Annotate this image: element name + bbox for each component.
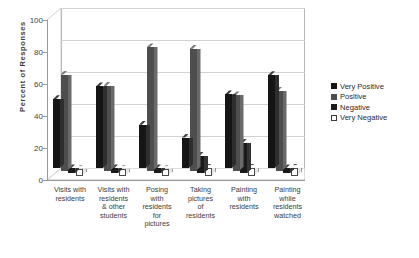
bar-face (53, 99, 60, 168)
legend-swatch-icon (331, 104, 337, 110)
bar-group (96, 8, 136, 180)
bar-side-3d (212, 168, 216, 176)
chart-legend: Very PositivePositiveNegativeVery Negati… (331, 81, 417, 123)
bar-side-3d (169, 169, 173, 175)
x-axis-category-label: Paintingwithresidents (221, 186, 267, 212)
bar-group (268, 8, 308, 180)
x-axis-category-label: Visits withresidents (47, 186, 93, 203)
x-axis-category-label: Takingpicturesofresidents (178, 186, 224, 220)
bar-face (182, 138, 189, 168)
bar-face (96, 86, 103, 168)
legend-label: Very Positive (340, 82, 384, 91)
bar (96, 86, 103, 168)
bar-side-3d (197, 49, 201, 171)
bar-groups (47, 8, 305, 180)
bar-side-3d (275, 75, 279, 168)
bar-side-3d (126, 169, 130, 175)
x-axis-category-label: Posingwithresidentsforpictures (134, 186, 180, 229)
bar-group (182, 8, 222, 180)
y-axis-tick-label: 20 (34, 144, 43, 153)
bar-side-3d (146, 125, 150, 168)
bar-group (53, 8, 93, 180)
bar-side-3d (247, 143, 251, 173)
bar-side-3d (103, 86, 107, 168)
x-axis-line (47, 180, 305, 181)
x-axis-category-labels: Visits withresidentsVisits withresidents… (47, 186, 319, 256)
legend-label: Very Negative (340, 113, 387, 122)
legend-swatch-icon (331, 94, 337, 100)
legend-label: Positive (340, 92, 367, 101)
bar (68, 168, 75, 173)
x-axis-category-label: Paintingwhileresidentswatched (265, 186, 311, 220)
y-axis-tick-label: 60 (34, 80, 43, 89)
x-axis-category-label: Visits withresidents& otherstudents (91, 186, 137, 220)
bar-side-3d (283, 91, 287, 171)
bar (182, 138, 189, 168)
y-axis-tick-mark (43, 180, 47, 181)
bar-chart: Percent of Responses 020406080100 Visits… (0, 0, 419, 258)
legend-item[interactable]: Negative (331, 102, 417, 113)
bar-group (225, 8, 265, 180)
y-axis-title: Percent of Responses (18, 7, 27, 127)
bar-group (139, 8, 179, 180)
legend-item[interactable]: Very Negative (331, 113, 417, 124)
bar (154, 168, 161, 173)
bar (225, 94, 232, 168)
bar-side-3d (154, 47, 158, 170)
bar (53, 99, 60, 168)
bar-side-3d (83, 169, 87, 175)
y-axis-tick-label: 80 (34, 48, 43, 57)
y-axis-tick-label: 100 (30, 16, 43, 25)
bar-side-3d (189, 138, 193, 168)
bar-side-3d (111, 86, 115, 171)
bar-side-3d (298, 168, 302, 176)
bar-side-3d (60, 99, 64, 168)
bar-side-3d (232, 94, 236, 168)
legend-item[interactable]: Positive (331, 92, 417, 103)
legend-swatch-icon (331, 83, 337, 89)
bar (139, 125, 146, 168)
bar-face (154, 168, 161, 173)
bar-face (283, 168, 290, 173)
bar-face (268, 75, 275, 168)
bar-face (68, 168, 75, 173)
bar-face (139, 125, 146, 168)
y-axis-tick-label: 40 (34, 112, 43, 121)
bar-face (225, 94, 232, 168)
bar (283, 168, 290, 173)
bar-side-3d (240, 95, 244, 170)
bar (268, 75, 275, 168)
plot-area: 020406080100 (47, 8, 305, 180)
legend-swatch-icon (331, 115, 337, 121)
bar-side-3d (255, 168, 259, 176)
bar-face (111, 168, 118, 173)
bar (111, 168, 118, 173)
legend-item[interactable]: Very Positive (331, 81, 417, 92)
legend-label: Negative (340, 103, 370, 112)
bar-side-3d (68, 75, 72, 171)
